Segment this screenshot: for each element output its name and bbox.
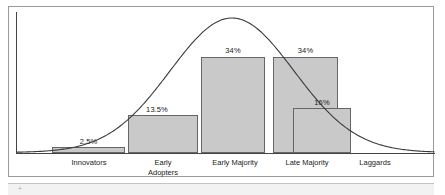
category-label-early-adopters: Early Adopters: [125, 158, 201, 177]
category-label-laggards: Laggards: [340, 158, 410, 168]
category-label-early-majority: Early Majority: [196, 158, 274, 168]
category-label-late-majority: Late Majority: [268, 158, 346, 168]
adoption-curve-figure: 2.5%13.5%34%34%16% InnovatorsEarly Adopt…: [0, 0, 445, 195]
band-marker-icon: +: [18, 186, 23, 191]
bottom-separator-band: [8, 183, 434, 195]
bell-curve-path: [17, 18, 434, 152]
plot-area: 2.5%13.5%34%34%16% InnovatorsEarly Adopt…: [0, 0, 445, 195]
category-label-innovators: Innovators: [46, 158, 132, 168]
